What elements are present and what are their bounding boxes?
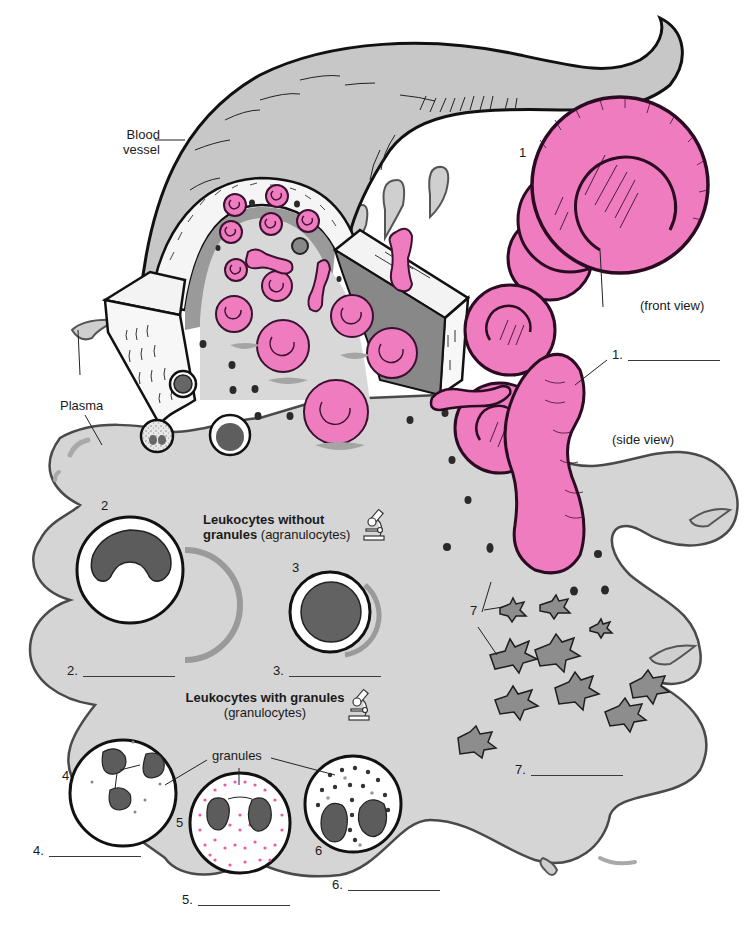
answer-number-2: 2. bbox=[67, 663, 78, 678]
answer-line-5[interactable] bbox=[198, 905, 290, 906]
answer-blank-3[interactable]: 3. bbox=[273, 663, 381, 678]
answer-blank-7[interactable]: 7. bbox=[515, 762, 623, 777]
answer-line-1[interactable] bbox=[628, 360, 720, 361]
leukocyte-5-eosinophil bbox=[190, 773, 290, 873]
marker-3: 3 bbox=[292, 560, 299, 575]
marker-5: 5 bbox=[176, 815, 183, 830]
leukocyte-3-lymphocyte bbox=[290, 572, 379, 655]
marker-1: 1 bbox=[519, 145, 526, 160]
marker-7: 7 bbox=[470, 603, 477, 618]
diagram-artwork bbox=[0, 0, 751, 931]
heading-granulocytes: Leukocytes with granules (granulocytes) bbox=[180, 690, 350, 720]
label-plasma: Plasma bbox=[60, 398, 103, 413]
heading-agranulocytes-normal: (agranulocytes) bbox=[261, 527, 351, 542]
label-granules: granules bbox=[212, 748, 262, 763]
answer-line-7[interactable] bbox=[531, 775, 623, 776]
blood-diagram: Blood vessel Plasma (front view) (side v… bbox=[0, 0, 751, 931]
answer-line-2[interactable] bbox=[83, 676, 175, 677]
answer-blank-6[interactable]: 6. bbox=[332, 877, 440, 892]
leukocyte-4-neutrophil bbox=[70, 740, 176, 846]
label-side-view: (side view) bbox=[612, 432, 674, 447]
heading-granulocytes-line2: (granulocytes) bbox=[180, 705, 350, 720]
answer-number-4: 4. bbox=[33, 843, 44, 858]
answer-blank-1[interactable]: 1. bbox=[612, 347, 720, 362]
marker-6: 6 bbox=[315, 843, 322, 858]
marker-2: 2 bbox=[101, 498, 108, 513]
label-blood-vessel-line2: vessel bbox=[123, 142, 160, 157]
answer-line-3[interactable] bbox=[289, 676, 381, 677]
answer-line-4[interactable] bbox=[49, 856, 141, 857]
answer-number-3: 3. bbox=[273, 663, 284, 678]
answer-blank-2[interactable]: 2. bbox=[67, 663, 175, 678]
heading-agranulocytes-bold: granules bbox=[203, 527, 257, 542]
answer-number-5: 5. bbox=[182, 892, 193, 907]
label-blood-vessel-line1: Blood bbox=[123, 127, 160, 142]
heading-granulocytes-line1: Leukocytes with granules bbox=[180, 690, 350, 705]
marker-4: 4 bbox=[62, 768, 69, 783]
microscope-icon bbox=[345, 688, 373, 722]
answer-blank-4[interactable]: 4. bbox=[33, 843, 141, 858]
answer-number-1: 1. bbox=[612, 347, 623, 362]
answer-number-6: 6. bbox=[332, 877, 343, 892]
heading-agranulocytes-line1: Leukocytes without bbox=[203, 512, 350, 527]
microscope-icon bbox=[360, 508, 388, 542]
answer-number-7: 7. bbox=[515, 762, 526, 777]
label-blood-vessel: Blood vessel bbox=[123, 127, 160, 157]
label-front-view: (front view) bbox=[640, 298, 704, 313]
heading-agranulocytes: Leukocytes without granules (agranulocyt… bbox=[203, 512, 350, 542]
erythrocyte-front-view bbox=[508, 97, 708, 300]
answer-blank-5[interactable]: 5. bbox=[182, 892, 290, 907]
answer-line-6[interactable] bbox=[348, 890, 440, 891]
